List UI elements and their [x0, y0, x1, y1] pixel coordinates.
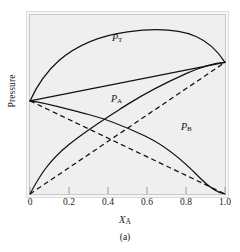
x-axis-label: XA [0, 214, 240, 226]
curve-pt-chord-line [30, 62, 225, 101]
curve-label-pt: PT [112, 32, 122, 44]
x-axis-tick-marks [30, 187, 225, 194]
x-tick-label-0.6: 0.6 [132, 197, 162, 207]
figure-caption: (a) [0, 232, 240, 242]
x-axis-tick-labels: 0 0.2 0.4 0.6 0.8 1.0 [30, 197, 225, 211]
x-tick-label-0.8: 0.8 [171, 197, 201, 207]
curve-pb [30, 101, 225, 194]
x-tick-label-0.2: 0.2 [54, 197, 84, 207]
pressure-composition-figure: Pressure PT PA PB 0 0.2 0.4 0.6 0.8 1.0 [0, 0, 240, 252]
curve-label-pa: PA [111, 93, 122, 105]
curve-label-pb: PB [181, 121, 192, 133]
curve-pb-raoult-line [30, 101, 225, 194]
x-tick-label-1.0: 1.0 [210, 197, 240, 207]
x-tick-label-0: 0 [15, 197, 45, 207]
y-axis-label: Pressure [7, 55, 17, 127]
curve-pt [30, 30, 225, 101]
x-tick-label-0.4: 0.4 [93, 197, 123, 207]
plot-canvas [30, 15, 225, 194]
